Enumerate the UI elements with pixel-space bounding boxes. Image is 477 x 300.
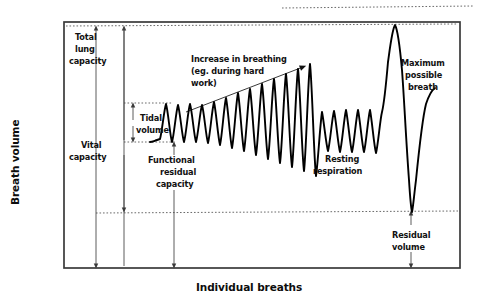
label-total-lung-capacity-line3: capacity [69,56,107,66]
label-residual-volume-line1: Residual [392,230,431,240]
label-max-breath-line1: Maximum [401,58,445,68]
label-residual-volume-line2: volume [392,242,425,252]
label-max-breath-line3: breath [408,82,438,92]
label-frc-line3: capacity [156,179,194,189]
label-tidal-volume-line2: volume [136,125,169,135]
diagram-canvas: Total lung capacity Vital capacity Tidal… [0,0,477,300]
label-vital-capacity-line2: capacity [69,152,107,162]
label-resting-respiration-line2: respiration [313,166,363,176]
lung-volume-diagram: Total lung capacity Vital capacity Tidal… [0,0,477,300]
top-scan-dotted-line [282,6,474,8]
label-total-lung-capacity-line1: Total [75,32,97,42]
label-vital-capacity-line1: Vital [81,140,102,150]
label-increase-breathing-line2: (eg. during hard [191,66,264,76]
label-frc-line2: residual [160,167,196,177]
label-total-lung-capacity-line2: lung [75,44,95,54]
residual-volume-dashed-line [96,211,458,213]
y-axis-label: Breath volume [9,120,21,205]
label-resting-respiration-line1: Resting [325,154,359,164]
total-lung-capacity-dashed-line [66,24,458,26]
label-frc-line1: Functional [148,155,195,165]
label-tidal-volume-line1: Tidal [140,113,162,123]
label-max-breath-line2: possible [405,70,443,80]
label-increase-breathing-line1: Increase in breathing [191,54,287,64]
label-increase-breathing-line3: work) [191,78,217,88]
x-axis-label: Individual breaths [196,281,302,293]
